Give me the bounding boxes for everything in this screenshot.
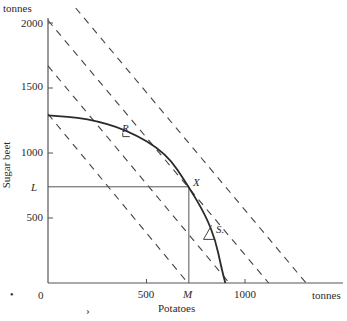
x-tick-label-1000: 1000 <box>234 288 257 300</box>
guide-label-l: L <box>30 181 37 193</box>
point-label-r: R <box>121 122 129 134</box>
point-label-s: S. <box>216 223 224 235</box>
guide-label-m: M <box>182 288 193 300</box>
tangent-marks <box>123 133 215 240</box>
stray-mark-chevron: › <box>86 304 90 316</box>
iso-value-line-1 <box>48 114 188 283</box>
y-tick-label-2000: 2000 <box>21 17 44 29</box>
y-tick-label-1000: 1000 <box>21 146 44 158</box>
stray-mark-dot: • <box>10 289 14 300</box>
iso-value-lines <box>48 8 306 283</box>
iso-value-line-4 <box>76 8 306 283</box>
iso-value-line-3 <box>48 20 269 283</box>
guide-lines <box>48 187 189 283</box>
iso-value-line-2 <box>48 66 229 283</box>
origin-label: 0 <box>38 289 44 301</box>
production-possibility-curve <box>48 115 225 283</box>
production-possibility-diagram: tonnes tonnes Potatoes Sugar beet 0 500 … <box>0 0 347 321</box>
x-axis-title: Potatoes <box>158 302 195 314</box>
y-tick-label-1500: 1500 <box>21 80 44 92</box>
y-axis-title: Sugar beet <box>0 142 12 189</box>
point-label-x: X <box>192 176 201 188</box>
y-tick-label-500: 500 <box>27 211 44 223</box>
y-unit-label: tonnes <box>3 2 32 14</box>
x-tick-label-500: 500 <box>138 288 155 300</box>
x-unit-label: tonnes <box>312 289 341 301</box>
